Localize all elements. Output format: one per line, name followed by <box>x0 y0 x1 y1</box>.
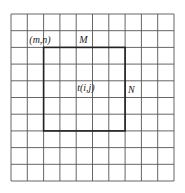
template-label: t(i,j) <box>77 82 95 94</box>
height-label-N: N <box>127 84 136 95</box>
corner-label: (m,n) <box>29 34 51 46</box>
width-label-M: M <box>78 34 88 45</box>
grid-svg: (m,n) M N t(i,j) <box>0 0 185 193</box>
template-grid-diagram: (m,n) M N t(i,j) <box>0 0 185 193</box>
